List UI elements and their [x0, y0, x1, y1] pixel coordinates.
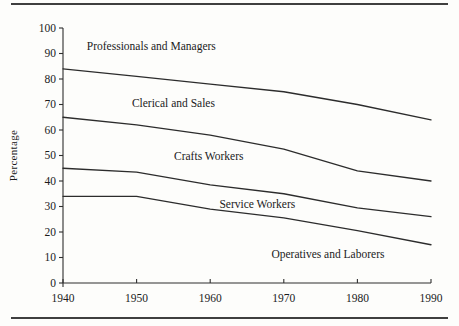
figure-chart: 0102030405060708090100194019501960197019…	[0, 0, 459, 326]
region-label-operatives-and-laborers: Operatives and Laborers	[271, 248, 385, 261]
x-tick-label: 1990	[420, 292, 443, 304]
data-line-1	[63, 69, 431, 120]
x-tick-label: 1950	[125, 292, 148, 304]
y-tick-label: 40	[45, 175, 57, 187]
y-tick-label: 80	[45, 73, 57, 85]
x-tick-label: 1960	[199, 292, 222, 304]
y-tick-label: 10	[45, 251, 57, 263]
y-tick-label: 20	[45, 226, 57, 238]
region-label-service-workers: Service Workers	[219, 198, 295, 210]
y-tick-label: 70	[45, 98, 57, 110]
y-tick-label: 90	[45, 47, 57, 59]
figure-top-rule	[11, 3, 448, 5]
y-tick-label: 30	[45, 200, 57, 212]
region-label-crafts-workers: Crafts Workers	[174, 150, 244, 162]
figure-bottom-rule	[11, 317, 448, 319]
y-tick-label: 100	[39, 22, 57, 34]
occupational-composition-line-chart: 0102030405060708090100194019501960197019…	[0, 0, 459, 326]
x-tick-label: 1940	[52, 292, 75, 304]
y-tick-label: 60	[45, 124, 57, 136]
region-label-professionals-and-managers: Professionals and Managers	[87, 40, 217, 53]
x-tick-label: 1970	[272, 292, 295, 304]
y-axis-title: Percentage	[7, 130, 19, 181]
x-tick-label: 1980	[346, 292, 369, 304]
region-label-clerical-and-sales: Clerical and Sales	[132, 97, 216, 109]
y-tick-label: 50	[45, 149, 57, 161]
y-tick-label: 0	[50, 277, 56, 289]
